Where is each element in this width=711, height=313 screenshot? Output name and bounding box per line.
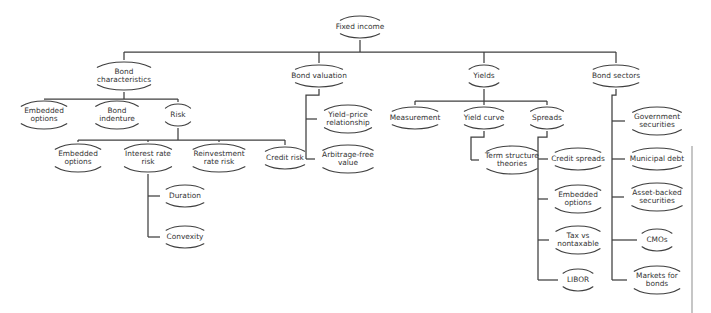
node-municipal-debt[interactable]: Municipal debt	[630, 148, 684, 170]
node-label-bond-sectors: Bond sectors	[592, 71, 640, 80]
node-label-duration: Duration	[169, 191, 201, 200]
node-label-measurement: Measurement	[390, 113, 441, 122]
node-label-cmos: CMOs	[646, 235, 667, 244]
node-bond-indenture[interactable]: Bondindenture	[96, 101, 138, 129]
node-label-arbitrage-free-value: Arbitrage-freevalue	[322, 150, 374, 168]
fixed-income-concept-map: Fixed incomeBondcharacteristicsBond valu…	[0, 0, 711, 313]
concept-map-container: Fixed incomeBondcharacteristicsBond valu…	[0, 0, 711, 313]
node-label-markets-for-bonds: Markets forbonds	[636, 271, 679, 289]
node-label-bond-characteristics: Bondcharacteristics	[97, 67, 151, 85]
node-label-tax-vs-nontaxable: Tax vsnontaxable	[557, 231, 599, 249]
node-embedded-options-bc[interactable]: Embeddedoptions	[21, 101, 67, 129]
node-label-convexity: Convexity	[167, 232, 204, 241]
node-label-reinvestment-rate-risk: Reinvestmentrate risk	[193, 149, 244, 167]
node-interest-rate-risk[interactable]: Interest raterisk	[124, 144, 171, 172]
node-label-libor: LIBOR	[567, 275, 589, 284]
edge-elbow-interest-rate-risk	[148, 174, 160, 237]
node-bond-valuation[interactable]: Bond valuation	[291, 65, 347, 87]
node-government-securities[interactable]: Governmentsecurities	[633, 107, 682, 135]
node-bond-sectors[interactable]: Bond sectors	[592, 65, 640, 87]
node-label-term-structure-theories: Term structuretheories	[484, 151, 539, 169]
node-yield-curve[interactable]: Yield curve	[463, 107, 505, 129]
node-embedded-options-risk[interactable]: Embeddedoptions	[55, 144, 101, 172]
edge-bus-fixed-income	[124, 40, 616, 63]
node-spreads[interactable]: Spreads	[531, 107, 564, 129]
node-label-embedded-options-bc: Embeddedoptions	[24, 106, 64, 124]
node-duration[interactable]: Duration	[166, 185, 204, 207]
edge-elbow-yield-curve	[471, 131, 484, 160]
node-reinvestment-rate-risk[interactable]: Reinvestmentrate risk	[193, 144, 245, 172]
node-label-yield-price-relationship: Yield–pricerelationship	[326, 110, 370, 128]
edge-bus-risk	[78, 128, 285, 145]
node-measurement[interactable]: Measurement	[390, 107, 441, 129]
edge-bus-yields	[415, 89, 547, 105]
node-label-government-securities: Governmentsecurities	[634, 112, 680, 130]
node-credit-spreads[interactable]: Credit spreads	[551, 148, 605, 170]
node-label-fixed-income: Fixed income	[336, 22, 385, 31]
node-label-bond-valuation: Bond valuation	[291, 71, 347, 80]
node-label-risk: Risk	[170, 110, 186, 119]
node-label-yields: Yields	[472, 71, 495, 80]
node-label-embedded-options-risk: Embeddedoptions	[58, 149, 98, 167]
node-yield-price-relationship[interactable]: Yield–pricerelationship	[324, 105, 371, 133]
node-label-embedded-options-spread: Embeddedoptions	[558, 190, 598, 208]
node-fixed-income[interactable]: Fixed income	[336, 16, 385, 38]
edge-elbow-bond-valuation	[306, 89, 319, 159]
node-label-spreads: Spreads	[532, 113, 562, 122]
node-label-credit-risk: Credit risk	[266, 153, 305, 162]
node-asset-backed-securities[interactable]: Asset-backedsecurities	[632, 183, 682, 211]
node-label-interest-rate-risk: Interest raterisk	[125, 149, 171, 167]
node-cmos[interactable]: CMOs	[642, 229, 672, 251]
node-markets-for-bonds[interactable]: Markets forbonds	[634, 266, 680, 294]
node-convexity[interactable]: Convexity	[166, 226, 204, 248]
node-risk[interactable]: Risk	[165, 104, 190, 126]
node-label-asset-backed-securities: Asset-backedsecurities	[632, 188, 682, 206]
node-layer: Fixed incomeBondcharacteristicsBond valu…	[21, 16, 684, 294]
node-yields[interactable]: Yields	[469, 65, 499, 87]
node-libor[interactable]: LIBOR	[563, 269, 593, 291]
node-credit-risk[interactable]: Credit risk	[265, 147, 304, 169]
node-term-structure-theories[interactable]: Term structuretheories	[484, 146, 539, 174]
node-tax-vs-nontaxable[interactable]: Tax vsnontaxable	[556, 226, 600, 254]
node-label-yield-curve: Yield curve	[463, 113, 505, 122]
node-arbitrage-free-value[interactable]: Arbitrage-freevalue	[322, 145, 374, 173]
node-label-credit-spreads: Credit spreads	[551, 154, 605, 163]
node-bond-characteristics[interactable]: Bondcharacteristics	[97, 62, 151, 90]
node-embedded-options-spread[interactable]: Embeddedoptions	[555, 185, 601, 213]
node-label-bond-indenture: Bondindenture	[99, 106, 135, 124]
node-label-municipal-debt: Municipal debt	[630, 154, 684, 163]
edge-bus-bond-characteristics	[44, 92, 178, 102]
